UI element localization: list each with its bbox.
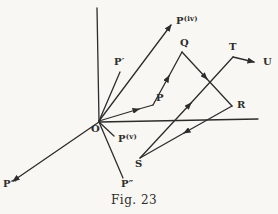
label-s: S [135, 159, 142, 170]
line-o-p-tail-segment [139, 105, 153, 109]
line-o-p-double-prime [99, 122, 123, 178]
line-q-r-arrow-segment [182, 52, 207, 79]
label-p-iv: P(iv) [176, 16, 198, 27]
label-p-triple-prime: P‴ [3, 179, 17, 190]
axis-horizontal-line [99, 119, 258, 122]
label-r: R [237, 100, 246, 111]
line-o-p-iv [99, 25, 171, 121]
line-q-r-tail-segment [207, 79, 232, 106]
line-s-t-tail-segment [191, 57, 233, 103]
label-p-double-prime: P″ [121, 179, 133, 190]
line-o-p-v [99, 122, 114, 136]
line-o-p-triple-prime [13, 122, 99, 181]
figure-23-vector-diagram: P′ P(iv) Q T U P R O P(v) S P″ P‴ Fig. 2… [0, 0, 278, 214]
line-o-p-arrow-segment [99, 109, 139, 121]
label-p-v: P(v) [118, 134, 137, 145]
line-r-s-tail-segment [140, 133, 184, 158]
axis-vertical-line [97, 8, 99, 121]
label-q: Q [180, 38, 189, 49]
label-p: P [156, 93, 164, 104]
line-p-q-tail-segment [169, 52, 182, 76]
label-t: T [229, 42, 237, 53]
label-u: U [263, 57, 272, 68]
line-s-t-arrow-segment [140, 103, 191, 158]
label-p-prime: P′ [114, 57, 125, 68]
figure-caption: Fig. 23 [111, 194, 157, 206]
line-t-u [233, 57, 254, 62]
label-o: O [91, 124, 100, 135]
